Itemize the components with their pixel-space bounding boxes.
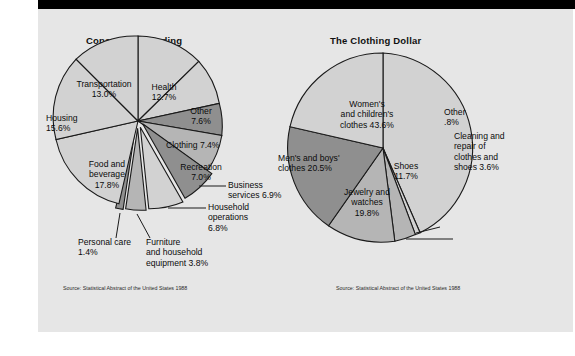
- chart-source-clothing-dollar: Source: Statistical Abstract of the Unit…: [336, 285, 460, 291]
- leader-furniture: [137, 214, 150, 238]
- slice-label-food-and-beverage: Food and beverage 17.8%: [76, 159, 138, 190]
- top-black-bar: [38, 0, 575, 9]
- slice-label-transportation: Transportation 13.0%: [68, 79, 140, 100]
- slice-label-shoes: Shoes 11.7%: [382, 161, 430, 182]
- pie-consumer-spending: Health 12.7% Other 7.6% Clothing 7.4% Re…: [38, 9, 306, 332]
- chart-source-consumer-spending: Source: Statistical Abstract of the Unit…: [63, 285, 187, 291]
- chart-consumer-spending: Consumer Spending: [38, 9, 306, 332]
- slice-label-recreation: Recreation 7.0%: [168, 162, 234, 183]
- slice-label-health: Health 12.7%: [138, 82, 190, 103]
- slice-label-other: Other .8%: [444, 107, 494, 128]
- figure-page: Consumer Spending: [0, 0, 575, 356]
- slice-label-cleaning-and-repair: Cleaning and repair of clothes and shoes…: [454, 131, 532, 173]
- slice-label-household-operations: Household operations 6.8%: [208, 202, 270, 233]
- slice-label-housing: Housing 15.6%: [46, 113, 104, 134]
- slice-label-clothing: Clothing 7.4%: [166, 140, 246, 150]
- slice-label-womens-and-childrens-clothes: Women's and children's clothes 43.6%: [325, 99, 409, 130]
- slice-label-mens-and-boys-clothes: Men's and boys' clothes 20.5%: [278, 153, 370, 174]
- charts-panel: Consumer Spending: [38, 9, 573, 332]
- slice-label-other: Other 7.6%: [180, 106, 222, 127]
- pie-clothing-dollar: Women's and children's clothes 43.6% Oth…: [278, 9, 573, 332]
- leader-personal-care: [116, 213, 120, 238]
- slice-label-furniture: Furniture and household equipment 3.8%: [146, 237, 226, 268]
- slice-label-jewelry-and-watches: Jewelry and watches 19.8%: [332, 187, 402, 218]
- slice-label-personal-care: Personal care 1.4%: [78, 237, 150, 258]
- chart-clothing-dollar: The Clothing Dollar: [278, 9, 573, 332]
